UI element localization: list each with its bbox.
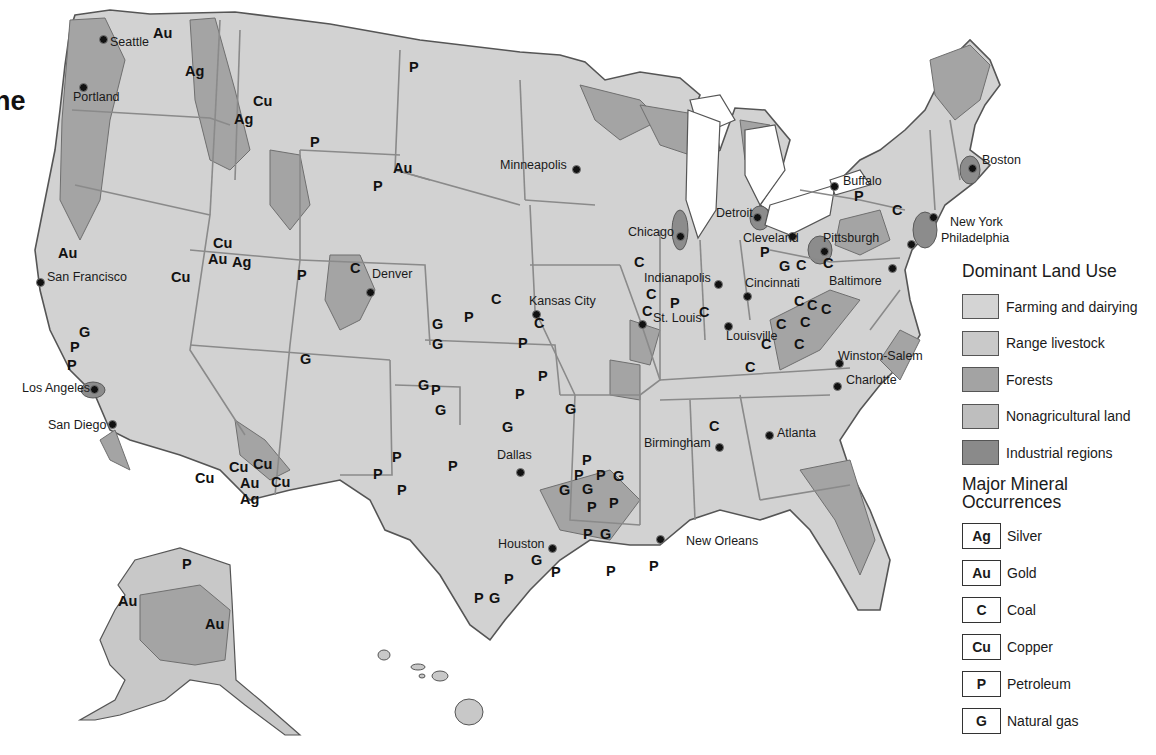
mineral-symbol: C [800, 315, 810, 330]
city-marker-icon [888, 264, 897, 273]
mineral-symbol: G [432, 317, 443, 332]
mineral-symbol: C [794, 294, 804, 309]
mineral-symbol: P [397, 483, 407, 498]
city-marker-icon [36, 278, 45, 287]
mineral-symbol: P [297, 268, 307, 283]
legend-label: Petroleum [1007, 676, 1071, 692]
city-label: Seattle [110, 36, 149, 49]
mineral-symbol: Au [58, 246, 77, 261]
city-label: Birmingham [644, 437, 711, 450]
mineral-symbol: G [435, 403, 446, 418]
city-marker-icon [572, 165, 581, 174]
city-label: New York [950, 216, 1003, 229]
mineral-symbol: P [504, 572, 514, 587]
city-label: Baltimore [829, 275, 882, 288]
farming-swatch [962, 294, 999, 319]
mineral-symbol: C [491, 292, 501, 307]
mineral-symbol: C [709, 419, 719, 434]
mineral-symbol: P [310, 135, 320, 150]
mineral-symbol: Ag [185, 64, 204, 79]
mineral-symbol: Cu [253, 94, 272, 109]
legend-item-silver: Ag Silver [962, 518, 1156, 555]
mineral-symbol: Cu [171, 270, 190, 285]
city-label: Minneapolis [500, 159, 567, 172]
mineral-symbol: P [373, 467, 383, 482]
mineral-symbol: C [807, 298, 817, 313]
city-label: Charlotte [846, 374, 897, 387]
mineral-symbol: P [854, 189, 864, 204]
mineral-symbol: C [745, 360, 755, 375]
mineral-symbol: P [70, 340, 80, 355]
legend-label: Coal [1007, 602, 1036, 618]
mineral-symbol: C [534, 316, 544, 331]
city-marker-icon [676, 232, 685, 241]
mineral-symbol: P [760, 245, 770, 260]
mineral-symbol: C [821, 302, 831, 317]
mineral-symbol: Cu [213, 236, 232, 251]
forest-swatch [962, 367, 999, 392]
mineral-symbol: C [761, 337, 771, 352]
mineral-symbol: C [892, 203, 902, 218]
city-label: Kansas City [529, 295, 596, 308]
mineral-symbol: P [392, 450, 402, 465]
mineral-symbol: P [431, 383, 441, 398]
legend-item-petroleum: P Petroleum [962, 666, 1156, 703]
city-marker-icon [743, 292, 752, 301]
land-use-mineral-map: ne [0, 0, 1156, 755]
city-label: Denver [372, 268, 412, 281]
mineral-symbol: Cu [195, 471, 214, 486]
legend-label: Forests [1006, 372, 1053, 388]
city-label: Dallas [497, 449, 532, 462]
legend-label: Farming and dairying [1006, 299, 1138, 315]
minerals-legend-list: Ag Silver Au Gold C Coal Cu Copper P Pet… [962, 518, 1156, 740]
mineral-symbol: P [464, 310, 474, 325]
mineral-symbol: P [67, 358, 77, 373]
mineral-symbol: Au [205, 617, 224, 632]
legend-label: Gold [1007, 565, 1037, 581]
mineral-symbol: G [565, 402, 576, 417]
mineral-symbol: P [596, 468, 606, 483]
mineral-symbol: G [432, 337, 443, 352]
city-marker-icon [715, 443, 724, 452]
legend-item-range: Range livestock [962, 325, 1156, 362]
mineral-symbol: P [538, 369, 548, 384]
city-marker-icon [929, 213, 938, 222]
minerals-legend-title: Major Mineral Occurrences [962, 475, 1156, 512]
city-label: St. Louis [653, 312, 702, 325]
legend-label: Copper [1007, 639, 1053, 655]
mineral-symbol: G [613, 469, 624, 484]
city-label: Chicago [628, 226, 674, 239]
mineral-symbol: G [531, 553, 542, 568]
land-use-legend-list: Farming and dairying Range livestock For… [962, 288, 1156, 471]
legend-item-natural-gas: G Natural gas [962, 703, 1156, 740]
legend-label: Industrial regions [1006, 445, 1113, 461]
city-label: Atlanta [777, 427, 816, 440]
city-label: Cincinnati [745, 277, 800, 290]
city-label: Portland [73, 91, 120, 104]
mineral-symbol: C [823, 256, 833, 271]
city-marker-icon [833, 382, 842, 391]
mineral-symbol: P [670, 296, 680, 311]
city-label: Buffalo [843, 175, 882, 188]
mineral-symbol: Ag [232, 255, 251, 270]
mineral-symbol: C [642, 304, 652, 319]
city-label: Cleveland [743, 232, 799, 245]
city-marker-icon [907, 240, 916, 249]
mineral-symbol: Au [393, 161, 412, 176]
silver-symbol: Ag [962, 523, 1001, 549]
range-swatch [962, 331, 999, 356]
minerals-title-line1: Major Mineral [962, 474, 1068, 494]
city-label: San Francisco [47, 271, 127, 284]
mineral-symbol: G [600, 527, 611, 542]
mineral-symbol: G [300, 352, 311, 367]
city-marker-icon [638, 320, 647, 329]
city-label: San Diego [48, 419, 106, 432]
mineral-symbol: Au [153, 26, 172, 41]
mineral-symbol: P [551, 565, 561, 580]
petroleum-symbol: P [962, 671, 1001, 697]
legend-item-nonag: Nonagricultural land [962, 398, 1156, 435]
city-label: Detroit [716, 207, 753, 220]
mineral-symbol: P [182, 557, 192, 572]
mineral-symbol: C [634, 255, 644, 270]
mineral-symbol: P [587, 500, 597, 515]
